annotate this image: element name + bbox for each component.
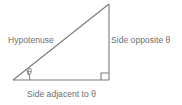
hypotenuse-label: Hypotenuse <box>8 35 54 45</box>
side-adjacent-label: Side adjacent to θ <box>27 89 96 99</box>
side-opposite-label: Side opposite θ <box>111 35 170 45</box>
right-angle-square-icon <box>101 73 109 80</box>
theta-angle-label: θ <box>27 67 32 77</box>
right-triangle-diagram: Hypotenuse Side opposite θ Side adjacent… <box>0 0 182 105</box>
